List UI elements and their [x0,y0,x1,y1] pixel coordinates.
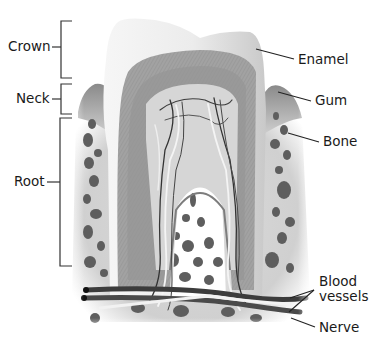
label-blood-vessels-line1: Blood [319,274,368,289]
label-nerve: Nerve [319,320,359,335]
label-blood-vessels: Blood vessels [319,274,368,304]
label-crown: Crown [8,39,51,54]
crown-bracket [61,21,72,78]
tooth [103,18,266,310]
label-root: Root [14,174,45,189]
label-bone: Bone [323,134,357,149]
label-neck: Neck [16,91,50,106]
label-gum: Gum [315,93,347,108]
label-blood-vessels-line2: vessels [319,289,368,304]
label-enamel: Enamel [298,52,349,67]
